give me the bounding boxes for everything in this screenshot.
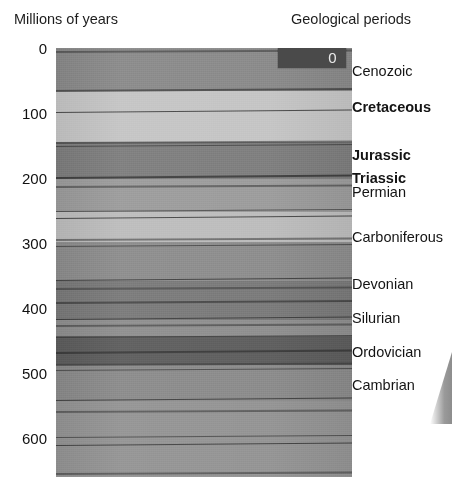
period-label-ordovician: Ordovician [352, 344, 421, 360]
edge-wedge-artifact [430, 352, 452, 424]
period-label-carboniferous: Carboniferous [352, 229, 443, 245]
y-axis-tick-200: 200 [22, 170, 47, 187]
period-label-cretaceous: Cretaceous [352, 99, 431, 115]
y-axis-tick-0: 0 [39, 40, 47, 57]
zero-marker-box: 0 [278, 48, 346, 68]
period-label-permian: Permian [352, 184, 406, 200]
zero-marker-label: 0 [328, 50, 346, 65]
y-axis-tick-300: 300 [22, 235, 47, 252]
y-axis-tick-500: 500 [22, 365, 47, 382]
figure-root: Millions of years Geological periods 010… [0, 0, 452, 492]
y-axis: 0100200300400500600 [0, 0, 56, 492]
stratigraphic-column: 0 [56, 48, 352, 477]
period-label-jurassic: Jurassic [352, 147, 411, 163]
y-axis-tick-100: 100 [22, 105, 47, 122]
y-axis-tick-400: 400 [22, 300, 47, 317]
y-axis-tick-600: 600 [22, 430, 47, 447]
band-jurassic [56, 142, 352, 178]
period-label-devonian: Devonian [352, 276, 413, 292]
period-label-silurian: Silurian [352, 310, 400, 326]
band-cretaceous [56, 91, 352, 142]
column-title-geological-periods: Geological periods [291, 11, 411, 27]
period-label-cambrian: Cambrian [352, 377, 415, 393]
band-carboniferous [56, 242, 352, 281]
band-triassic [56, 179, 352, 212]
period-label-cenozoic: Cenozoic [352, 63, 412, 79]
